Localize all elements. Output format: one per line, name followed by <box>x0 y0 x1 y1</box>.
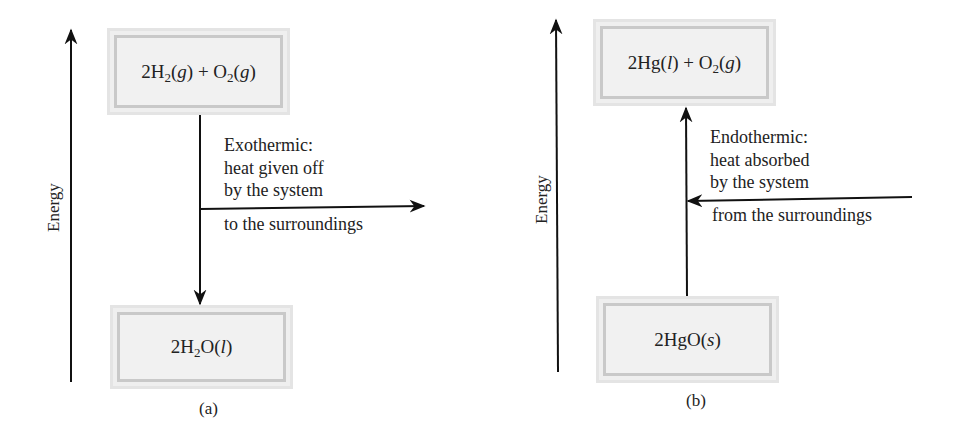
heat-flow-arrow-in-b <box>688 197 912 201</box>
panel-caption-b: (b) <box>686 391 706 411</box>
products-box-a: 2H2O(l) <box>110 305 293 389</box>
reactants-formula-a: 2H2(g) + O2(g) <box>141 61 255 83</box>
process-line-4-b: from the surroundings <box>712 204 872 227</box>
reactants-formula-b: 2HgO(s) <box>654 329 721 351</box>
process-line-2-b: heat absorbed <box>710 149 809 172</box>
products-formula-a: 2H2O(l) <box>171 336 232 358</box>
energy-axis-arrow-b <box>556 20 558 372</box>
process-line-4-a: to the surroundings <box>224 213 363 236</box>
products-box-b: 2Hg(l) + O2(g) <box>593 19 776 106</box>
products-formula-b: 2Hg(l) + O2(g) <box>628 52 741 74</box>
process-title-b: Endothermic: <box>710 126 809 149</box>
panel-caption-a: (a) <box>199 399 218 419</box>
reactants-box-b: 2HgO(s) <box>596 296 779 383</box>
process-description-a: Exothermic: heat given off by the system <box>224 134 324 202</box>
reaction-arrow-up-b <box>686 108 687 297</box>
process-line-2-a: heat given off <box>224 157 324 180</box>
process-line-3-b: by the system <box>710 171 809 194</box>
energy-axis-label-a: Energy <box>44 183 64 232</box>
heat-flow-arrow-out-a <box>200 206 424 209</box>
reactants-box-a: 2H2(g) + O2(g) <box>107 28 290 115</box>
process-title-a: Exothermic: <box>224 134 324 157</box>
process-description-b: Endothermic: heat absorbed by the system <box>710 126 809 194</box>
process-line-3-a: by the system <box>224 179 324 202</box>
energy-axis-label-b: Energy <box>532 175 552 224</box>
